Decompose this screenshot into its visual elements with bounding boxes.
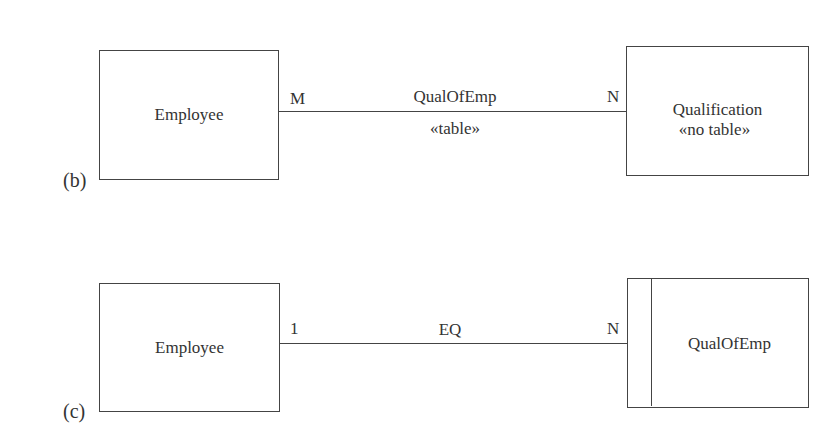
entity-qualification-b[interactable]: Qualification «no table» (626, 46, 809, 176)
entity-name: QualOfEmp (651, 335, 808, 352)
relationship-stereotype-b: «table» (380, 120, 530, 137)
entity-employee-b[interactable]: Employee (99, 50, 279, 180)
entity-name: Employee (100, 106, 278, 123)
entity-name: Employee (100, 339, 279, 356)
relationship-line-c (280, 343, 640, 344)
cardinality-right-c: N (607, 320, 619, 337)
diagram-label-c: (c) (63, 401, 85, 421)
entity-qualofemp-c[interactable]: QualOfEmp (627, 278, 809, 408)
cardinality-left-c: 1 (290, 320, 299, 337)
entity-stereotype: «no table» (621, 121, 808, 138)
relationship-name-b: QualOfEmp (380, 88, 530, 105)
entity-employee-c[interactable]: Employee (99, 283, 280, 412)
cardinality-right-b: N (607, 88, 619, 105)
cardinality-left-b: M (290, 90, 305, 107)
diagram-label-b: (b) (63, 170, 86, 190)
entity-name: Qualification (627, 101, 808, 118)
relationship-name-c: EQ (420, 321, 480, 338)
relationship-line-b (279, 111, 627, 112)
